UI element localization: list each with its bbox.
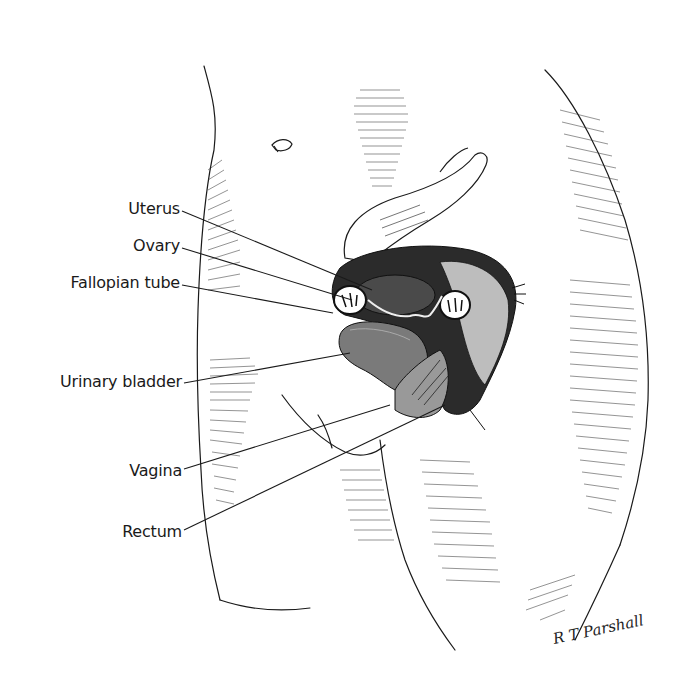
label-ovary: Ovary: [133, 236, 180, 255]
label-rectum: Rectum: [122, 522, 182, 541]
label-urinary-bladder: Urinary bladder: [60, 372, 182, 391]
left-ovary: [334, 286, 366, 314]
leader-urinary-bladder: [184, 353, 350, 383]
retracting-hand: [344, 148, 487, 262]
label-fallopian-tube: Fallopian tube: [71, 273, 180, 292]
leader-rectum: [184, 405, 445, 530]
navel: [272, 140, 292, 152]
leader-vagina: [184, 405, 390, 469]
label-uterus: Uterus: [128, 199, 180, 218]
anatomical-drawing: [0, 0, 685, 677]
leader-fallopian-tube: [182, 285, 333, 313]
leader-ovary: [182, 248, 352, 300]
pelvic-organs: [332, 246, 526, 430]
label-vagina: Vagina: [129, 461, 182, 480]
uterus: [355, 275, 435, 315]
leader-uterus: [182, 211, 372, 290]
